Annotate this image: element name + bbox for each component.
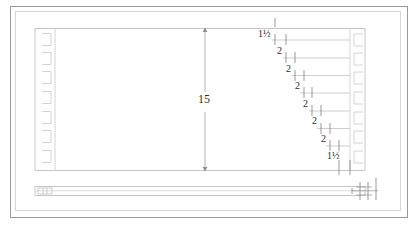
right-tab-strip (350, 29, 363, 171)
right-tab (354, 92, 363, 104)
right-tab (354, 151, 363, 163)
stepped-dimension-ladder (272, 40, 350, 146)
dimension-label-step-4: 2 (295, 81, 300, 91)
left-tab (42, 151, 51, 163)
right-tab (354, 131, 363, 143)
drawing-canvas: 15 1½ 2 2 2 2 2 2 1½ (0, 0, 418, 228)
right-tab (354, 53, 363, 65)
dimension-label-step-5: 2 (303, 99, 308, 109)
dimension-label-step-3: 2 (286, 64, 291, 74)
left-tab (42, 112, 51, 124)
left-tab-strip (42, 29, 55, 171)
left-tab (42, 72, 51, 84)
technical-drawing-svg (0, 0, 418, 228)
right-tab (354, 112, 363, 124)
dimension-label-step-2: 2 (277, 46, 282, 56)
dimension-label-step-8: 1½ (327, 151, 340, 161)
left-tab (42, 131, 51, 143)
left-tab (42, 53, 51, 65)
dimension-label-overall-height: 15 (198, 93, 210, 105)
dimension-label-step-1: 1½ (258, 29, 271, 39)
dimension-label-step-6: 2 (312, 116, 317, 126)
dimension-label-step-7: 2 (321, 134, 326, 144)
left-tab (42, 34, 51, 46)
right-tab (354, 72, 363, 84)
edge-side-view (35, 187, 365, 196)
right-tab (354, 34, 363, 46)
left-tab (42, 92, 51, 104)
